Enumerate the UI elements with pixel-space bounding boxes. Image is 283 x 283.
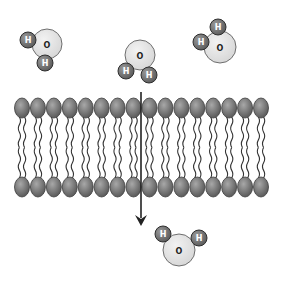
- lipid-head-bottom: [158, 177, 173, 197]
- phospholipid-pair: [254, 98, 269, 197]
- lipid-head-top: [94, 98, 109, 118]
- phospholipid-pair: [222, 98, 237, 197]
- lipid-tail: [146, 148, 148, 179]
- lipid-tail: [98, 117, 100, 148]
- lipid-tail: [24, 117, 26, 148]
- membrane-diagram: OHHOHHOHHOHH: [0, 0, 283, 283]
- hydrogen-label: H: [42, 59, 49, 68]
- lipid-head-top: [190, 98, 205, 118]
- lipid-tail: [167, 117, 169, 148]
- lipid-tail: [82, 148, 84, 179]
- lipid-tail: [119, 148, 121, 179]
- lipid-tail: [98, 148, 100, 179]
- lipid-head-top: [110, 98, 125, 118]
- lipid-tail: [119, 117, 121, 148]
- lipid-head-top: [206, 98, 221, 118]
- lipid-tail: [225, 148, 227, 179]
- lipid-tail: [194, 148, 196, 179]
- phospholipid-pair: [158, 98, 173, 197]
- phospholipid-pair: [238, 98, 253, 197]
- phospholipid-pair: [94, 98, 109, 197]
- hydrogen-label: H: [25, 36, 32, 45]
- lipid-head-top: [174, 98, 189, 118]
- lipid-tail: [146, 117, 148, 148]
- phospholipid-pair: [62, 98, 77, 197]
- lipid-tail: [199, 148, 201, 179]
- lipid-tail: [50, 117, 52, 148]
- lipid-tail: [18, 148, 20, 179]
- lipid-tail: [231, 148, 233, 179]
- lipid-tail: [247, 117, 249, 148]
- phospholipid-pair: [174, 98, 189, 197]
- lipid-tail: [210, 117, 212, 148]
- lipid-tail: [257, 117, 259, 148]
- lipid-tail: [55, 148, 57, 179]
- lipid-head-bottom: [142, 177, 157, 197]
- lipid-tail: [151, 148, 153, 179]
- lipid-tail: [34, 117, 36, 148]
- water-molecule-bottom: OHH: [155, 226, 207, 266]
- lipid-tail: [210, 148, 212, 179]
- diagram-canvas: OHHOHHOHHOHH: [0, 0, 283, 283]
- lipid-tail: [55, 117, 57, 148]
- hydrogen-label: H: [198, 38, 205, 47]
- lipid-head-bottom: [94, 177, 109, 197]
- lipid-head-bottom: [206, 177, 221, 197]
- lipid-tail: [39, 117, 41, 148]
- lipid-tail: [66, 148, 68, 179]
- phospholipid-pair: [190, 98, 205, 197]
- lipid-tail: [178, 117, 180, 148]
- lipid-tail: [130, 117, 132, 148]
- lipid-tail: [241, 148, 243, 179]
- lipid-tail: [215, 117, 217, 148]
- lipid-head-top: [62, 98, 77, 118]
- lipid-head-top: [238, 98, 253, 118]
- lipid-tail: [103, 148, 105, 179]
- oxygen-label: O: [44, 41, 51, 50]
- lipid-head-bottom: [222, 177, 237, 197]
- lipid-tail: [114, 117, 116, 148]
- oxygen-label: O: [176, 247, 183, 256]
- water-molecule-top-right: OHH: [193, 19, 236, 63]
- lipid-tail: [82, 117, 84, 148]
- lipid-tail: [263, 148, 265, 179]
- lipid-tail: [183, 148, 185, 179]
- lipid-head-bottom: [78, 177, 93, 197]
- lipid-tail: [215, 148, 217, 179]
- lipid-tail: [241, 117, 243, 148]
- phospholipid-pair: [206, 98, 221, 197]
- phospholipid-pair: [78, 98, 93, 197]
- lipid-head-bottom: [30, 177, 45, 197]
- lipid-head-bottom: [254, 177, 269, 197]
- lipid-tail: [130, 148, 132, 179]
- lipid-tail: [178, 148, 180, 179]
- lipid-tail: [71, 117, 73, 148]
- phospholipid-pair: [30, 98, 45, 197]
- lipid-tail: [103, 117, 105, 148]
- lipid-head-bottom: [46, 177, 61, 197]
- phospholipid-pair: [126, 98, 141, 197]
- oxygen-label: O: [217, 44, 224, 53]
- lipid-tail: [71, 148, 73, 179]
- phospholipid-pair: [110, 98, 125, 197]
- lipid-head-bottom: [190, 177, 205, 197]
- lipid-tail: [24, 148, 26, 179]
- hydrogen-label: H: [196, 234, 203, 243]
- lipid-head-top: [46, 98, 61, 118]
- lipid-tail: [50, 148, 52, 179]
- hydrogen-label: H: [123, 67, 130, 76]
- lipid-tail: [135, 117, 137, 148]
- lipid-head-bottom: [110, 177, 125, 197]
- hydrogen-label: H: [215, 23, 222, 32]
- lipid-tail: [225, 117, 227, 148]
- lipid-tail: [231, 117, 233, 148]
- lipid-tail: [87, 148, 89, 179]
- lipid-tail: [162, 117, 164, 148]
- phospholipid-pair: [46, 98, 61, 197]
- lipid-tail: [87, 117, 89, 148]
- lipid-tail: [247, 148, 249, 179]
- lipid-head-top: [222, 98, 237, 118]
- oxygen-label: O: [137, 52, 144, 61]
- lipid-head-top: [78, 98, 93, 118]
- lipid-tail: [66, 117, 68, 148]
